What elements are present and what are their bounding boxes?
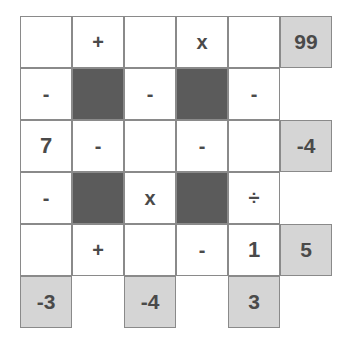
given-number-cell: 1 (228, 224, 280, 276)
row-result-cell: 5 (280, 224, 332, 276)
row-result-cell: -4 (280, 120, 332, 172)
row-result-cell: 99 (280, 16, 332, 68)
operator-cell: - (20, 68, 72, 120)
operator-cell: + (72, 224, 124, 276)
operator-cell: - (176, 120, 228, 172)
blocked-cell (176, 172, 228, 224)
operator-cell: - (124, 68, 176, 120)
column-result-cell: 3 (228, 276, 280, 328)
operator-cell: x (176, 16, 228, 68)
math-crossword-grid: +x99---7---4-x÷+-15-3-43 (20, 16, 332, 328)
column-result-cell: -3 (20, 276, 72, 328)
operator-cell: ÷ (228, 172, 280, 224)
blocked-cell (72, 172, 124, 224)
empty-input-cell[interactable] (124, 120, 176, 172)
empty-input-cell[interactable] (228, 120, 280, 172)
blocked-cell (72, 68, 124, 120)
operator-cell: + (72, 16, 124, 68)
empty-input-cell[interactable] (124, 224, 176, 276)
operator-cell: x (124, 172, 176, 224)
column-result-cell: -4 (124, 276, 176, 328)
operator-cell: - (72, 120, 124, 172)
empty-input-cell[interactable] (124, 16, 176, 68)
blocked-cell (176, 68, 228, 120)
operator-cell: - (176, 224, 228, 276)
operator-cell: - (228, 68, 280, 120)
empty-input-cell[interactable] (228, 16, 280, 68)
empty-input-cell[interactable] (20, 16, 72, 68)
operator-cell: - (20, 172, 72, 224)
given-number-cell: 7 (20, 120, 72, 172)
empty-input-cell[interactable] (20, 224, 72, 276)
